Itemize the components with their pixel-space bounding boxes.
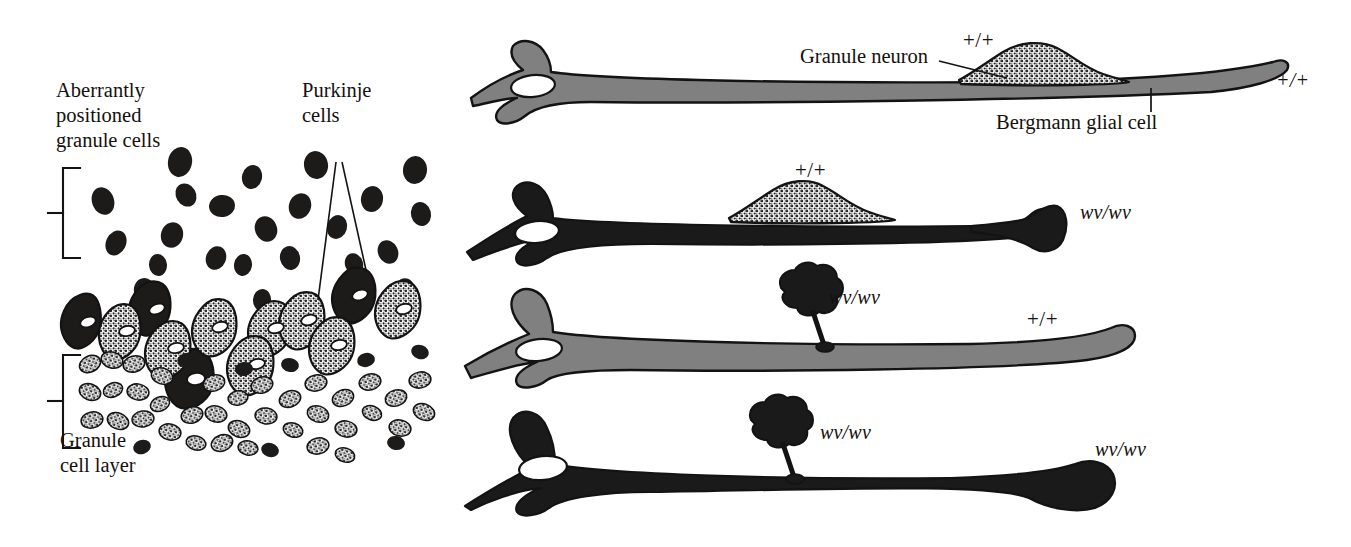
row-2-group	[467, 181, 1066, 265]
label-aberrant-granule-cells: Aberrantly positioned granule cells	[56, 78, 160, 153]
row-2-glia-endfoot	[971, 206, 1066, 252]
row-2-granule-neuron	[729, 181, 895, 223]
row-1-glia-genotype: +/+	[1276, 68, 1309, 92]
row-2-glia-genotype: wv/wv	[1080, 200, 1131, 224]
row-4-glia-genotype: wv/wv	[1095, 437, 1146, 461]
label-purkinje-cells: Purkinje cells	[302, 78, 371, 128]
row-3-neuron-process	[813, 312, 823, 342]
figure-canvas: Aberrantly positioned granule cells Purk…	[0, 0, 1351, 547]
row-4-neuron-process	[783, 444, 793, 474]
row-4-neuron-foot	[786, 474, 804, 484]
label-granule-cell-layer: Granule cell layer	[60, 428, 136, 478]
aberrant-bracket	[48, 168, 80, 258]
label-bergmann-glial-cell: Bergmann glial cell	[996, 110, 1157, 135]
row-3-neuron-genotype: wv/wv	[829, 285, 880, 309]
right-panel-drawing	[451, 0, 1351, 547]
row-4-neuron-genotype: wv/wv	[820, 420, 871, 444]
row-4-granule-neuron	[750, 395, 813, 448]
label-granule-neuron: Granule neuron	[800, 44, 928, 69]
row-1-neuron-genotype: +/+	[963, 28, 994, 54]
row-2-neuron-genotype: +/+	[795, 158, 826, 184]
row-4-group	[465, 395, 1115, 516]
row-3-glia-genotype: +/+	[1027, 307, 1058, 333]
row-3-neuron-foot	[816, 342, 834, 352]
